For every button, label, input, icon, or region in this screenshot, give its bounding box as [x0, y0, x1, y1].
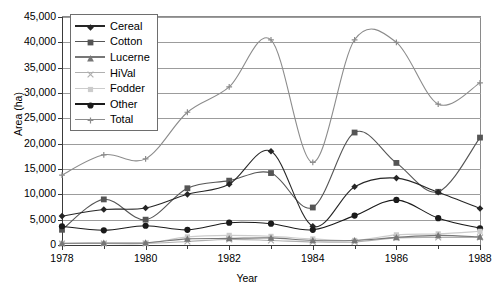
- x-tick-mark: [480, 246, 481, 250]
- legend-label: Lucerne: [105, 51, 150, 63]
- legend-swatch-other-icon: [75, 98, 105, 110]
- legend-item-cotton[interactable]: Cotton: [75, 34, 150, 50]
- data-point-marker: [184, 191, 191, 198]
- series-cereal: [59, 148, 484, 230]
- data-point-marker: [101, 197, 107, 203]
- data-point-marker: [142, 205, 149, 212]
- x-axis-title: Year: [0, 272, 494, 284]
- legend-swatch-hival-icon: [75, 67, 105, 79]
- data-point-marker: [101, 152, 107, 158]
- data-point-marker: [477, 135, 483, 141]
- y-tick-label: 15,000: [0, 163, 56, 174]
- x-minor-tick-mark: [355, 246, 356, 249]
- legend-marker-diamond-icon: [86, 23, 95, 32]
- y-tick-label: 45,000: [0, 11, 56, 22]
- y-tick-label: 20,000: [0, 138, 56, 149]
- legend-label: Cotton: [105, 35, 142, 47]
- y-tick-label: 40,000: [0, 36, 56, 47]
- series-other: [59, 197, 483, 234]
- data-point-marker: [143, 156, 149, 162]
- legend-label: Total: [105, 113, 133, 125]
- legend-marker-cross-icon: [86, 70, 95, 79]
- legend-marker-triangle-icon: [86, 54, 95, 63]
- y-tick-label: 35,000: [0, 62, 56, 73]
- x-tick-mark: [396, 246, 397, 250]
- x-tick-label: 1984: [291, 252, 335, 264]
- data-point-marker: [226, 220, 232, 226]
- legend-item-total[interactable]: Total: [75, 112, 150, 128]
- y-tick-label: 10,000: [0, 188, 56, 199]
- legend-label: Cereal: [105, 20, 142, 32]
- x-minor-tick-mark: [271, 246, 272, 249]
- line-chart: Area (ha) 05,00010,00015,00020,00025,000…: [0, 0, 494, 290]
- data-point-marker: [310, 160, 316, 166]
- x-tick-label: 1978: [40, 252, 84, 264]
- data-point-marker: [435, 101, 441, 107]
- y-tick-label: 25,000: [0, 112, 56, 123]
- data-point-marker: [101, 206, 108, 213]
- data-point-marker: [268, 221, 274, 227]
- legend-item-other[interactable]: Other: [75, 96, 150, 112]
- x-tick-label: 1988: [458, 252, 494, 264]
- x-minor-tick-mark: [187, 246, 188, 249]
- x-tick-label: 1980: [124, 252, 168, 264]
- data-point-marker: [143, 217, 149, 223]
- series-cotton: [59, 130, 483, 233]
- data-point-marker: [310, 227, 316, 233]
- series-line: [62, 131, 480, 230]
- legend-swatch-lucerne-icon: [75, 51, 105, 63]
- data-point-marker: [101, 227, 107, 233]
- legend-marker-filled-square-icon: [86, 85, 95, 94]
- data-point-marker: [310, 205, 316, 211]
- legend-item-fodder[interactable]: Fodder: [75, 80, 150, 96]
- x-tick-mark: [146, 246, 147, 250]
- legend-label: Fodder: [105, 82, 145, 94]
- data-point-marker: [477, 229, 482, 234]
- legend-item-lucerne[interactable]: Lucerne: [75, 49, 150, 65]
- data-point-marker: [435, 215, 441, 221]
- legend-label: Other: [105, 98, 138, 110]
- x-minor-tick-mark: [104, 246, 105, 249]
- data-point-marker: [352, 130, 358, 136]
- legend-item-hival[interactable]: HiVal: [75, 65, 150, 81]
- series-line: [62, 150, 480, 227]
- y-tick-label: 0: [0, 239, 56, 250]
- data-point-marker: [268, 170, 274, 176]
- legend-item-cereal[interactable]: Cereal: [75, 18, 150, 34]
- legend-swatch-fodder-icon: [75, 82, 105, 94]
- x-tick-mark: [313, 246, 314, 250]
- x-tick-mark: [62, 246, 63, 250]
- x-tick-mark: [229, 246, 230, 250]
- data-point-marker: [393, 197, 399, 203]
- legend-swatch-total-icon: [75, 113, 105, 125]
- data-point-marker: [59, 223, 65, 229]
- y-tick-label: 5,000: [0, 214, 56, 225]
- chart-legend[interactable]: CerealCottonLucerneHiValFodderOtherTotal: [70, 14, 158, 131]
- x-tick-label: 1982: [207, 252, 251, 264]
- data-point-marker: [184, 227, 190, 233]
- legend-label: HiVal: [105, 67, 135, 79]
- y-tick-label: 30,000: [0, 87, 56, 98]
- data-point-marker: [393, 175, 400, 182]
- x-minor-tick-mark: [438, 246, 439, 249]
- x-tick-label: 1986: [374, 252, 418, 264]
- legend-marker-plus-icon: [86, 116, 95, 125]
- data-point-marker: [185, 185, 191, 191]
- data-point-marker: [394, 160, 400, 166]
- legend-marker-square-icon: [86, 38, 95, 47]
- legend-swatch-cereal-icon: [75, 20, 105, 32]
- legend-swatch-cotton-icon: [75, 35, 105, 47]
- legend-marker-circle-icon: [86, 101, 95, 110]
- data-point-marker: [352, 213, 358, 219]
- data-point-marker: [143, 223, 149, 229]
